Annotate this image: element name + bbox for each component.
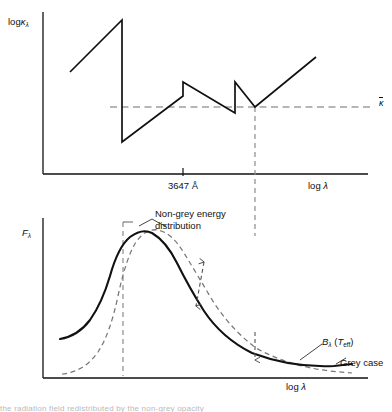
- overbar: [379, 97, 383, 98]
- x-axis-log-text: log: [308, 180, 321, 191]
- planck-lambda-subscript: λ: [328, 341, 331, 348]
- planck-function-annotation: Bλ (Teff): [322, 336, 353, 348]
- cropped-caption: the radiation field redistributed by the…: [0, 404, 392, 412]
- y-axis-log-text: log: [8, 16, 21, 27]
- nongrey-annotation-line2: distribution: [155, 220, 201, 231]
- flux-lambda-subscript: λ: [28, 232, 31, 239]
- y-axis-lambda-subscript: λ: [25, 21, 28, 28]
- planck-leader-line: [300, 344, 322, 360]
- flux-symbol: F: [22, 227, 28, 238]
- top-panel-opacity: [43, 12, 374, 236]
- figure-root: logκλ κ 3647 Å log λ Fλ Non-grey energy …: [0, 0, 392, 412]
- x-axis-lambda-symbol: λ: [323, 180, 328, 191]
- nongrey-leader-tail: [139, 219, 152, 226]
- bottom-panel-flux: [43, 218, 368, 378]
- top-panel-y-axis-label: logκλ: [8, 16, 29, 28]
- bottom-panel-x-axis-label: log λ: [286, 381, 306, 393]
- mean-opacity-label: κ: [379, 98, 384, 109]
- opacity-sawtooth-curve: [70, 20, 316, 142]
- kappa-symbol: κ: [379, 98, 384, 108]
- nongrey-flux-curve: [60, 231, 352, 366]
- x-tick-label-3647: 3647 Å: [168, 180, 198, 192]
- nongrey-annotation: Non-grey energy distribution: [155, 208, 226, 232]
- top-panel-x-axis-label: log λ: [308, 180, 328, 192]
- grey-case-annotation: Grey case: [340, 357, 383, 369]
- bottom-x-axis-lambda-symbol: λ: [301, 381, 306, 392]
- nongrey-annotation-line1: Non-grey energy: [155, 208, 226, 219]
- bottom-x-axis-log-text: log: [286, 381, 299, 392]
- grey-case-curve: [62, 230, 352, 374]
- teff-subscript: eff: [343, 341, 350, 348]
- kappa-bar-glyph: κ: [379, 98, 384, 109]
- figure-canvas: [0, 0, 392, 412]
- bottom-panel-y-axis-label: Fλ: [22, 227, 31, 239]
